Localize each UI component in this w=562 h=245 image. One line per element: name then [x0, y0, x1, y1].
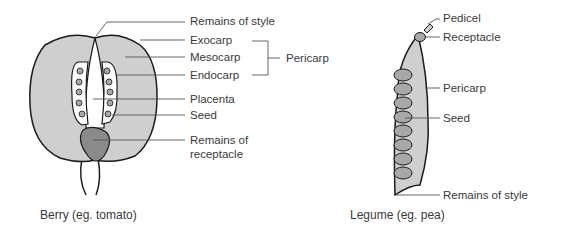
- label-mesocarp: Mesocarp: [190, 51, 241, 64]
- label-exocarp: Exocarp: [190, 34, 232, 47]
- label-remains-of-receptacle-2: receptacle: [190, 148, 243, 161]
- label-remains-of-style: Remains of style: [190, 15, 275, 28]
- label-remains-of-receptacle-1: Remains of: [190, 134, 248, 147]
- berry-drawing: [30, 22, 280, 195]
- label-pericarp-legume: Pericarp: [443, 82, 486, 95]
- label-endocarp: Endocarp: [190, 69, 239, 82]
- label-seed-legume: Seed: [443, 112, 470, 125]
- label-placenta: Placenta: [190, 93, 235, 106]
- label-pericarp: Pericarp: [286, 52, 329, 65]
- label-pedicel: Pedicel: [443, 12, 481, 25]
- legume-caption: Legume (eg. pea): [350, 208, 445, 222]
- label-seed: Seed: [190, 109, 217, 122]
- label-receptacle: Receptacle: [443, 31, 501, 44]
- legume-drawing: [394, 19, 440, 195]
- label-remains-of-style-legume: Remains of style: [443, 189, 528, 202]
- berry-caption: Berry (eg. tomato): [40, 208, 137, 222]
